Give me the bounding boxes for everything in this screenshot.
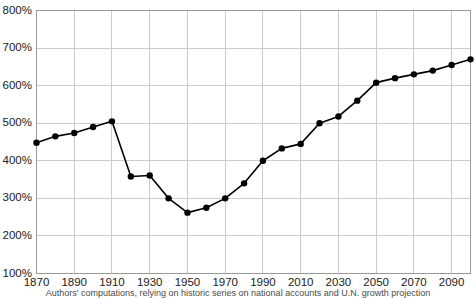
data-point-marker: [297, 141, 303, 147]
data-series-line: [37, 59, 471, 212]
y-axis-tick-label: 300%: [0, 192, 32, 204]
x-axis-tick-label: 2090: [430, 277, 474, 289]
y-axis-tick-label: 400%: [0, 155, 32, 167]
y-axis-tick-label: 200%: [0, 230, 32, 242]
y-axis-tick-label: 700%: [0, 42, 32, 54]
series-line: [37, 59, 471, 212]
grid-lines: [37, 11, 471, 274]
y-axis-tick-label: 600%: [0, 80, 32, 92]
data-point-marker: [33, 140, 39, 146]
data-point-marker: [203, 205, 209, 211]
data-point-marker: [279, 145, 285, 151]
plot-area-frame: [37, 11, 471, 274]
line-chart-plot: [0, 0, 476, 298]
data-point-marker: [448, 62, 454, 68]
data-point-marker: [392, 75, 398, 81]
data-point-marker: [335, 113, 341, 119]
data-point-marker: [316, 120, 322, 126]
chart-caption: Authors' computations, relying on histor…: [0, 289, 476, 298]
data-point-marker: [430, 67, 436, 73]
data-point-marker: [90, 124, 96, 130]
data-point-marker: [128, 173, 134, 179]
y-axis-tick-label: 500%: [0, 117, 32, 129]
data-point-marker: [467, 56, 473, 62]
chart-container: 100%200%300%400%500%600%700%800% 1870189…: [0, 0, 476, 298]
data-point-marker: [109, 118, 115, 124]
data-point-marker: [411, 71, 417, 77]
data-point-marker: [222, 195, 228, 201]
y-axis-tick-label: 800%: [0, 5, 32, 17]
data-point-marker: [373, 79, 379, 85]
axis-lines: [37, 11, 471, 274]
data-point-marker: [165, 195, 171, 201]
data-point-marker: [52, 133, 58, 139]
data-point-markers: [33, 56, 473, 216]
data-point-marker: [71, 130, 77, 136]
data-point-marker: [241, 180, 247, 186]
data-point-marker: [147, 172, 153, 178]
data-point-marker: [184, 209, 190, 215]
data-point-marker: [354, 97, 360, 103]
data-point-marker: [260, 158, 266, 164]
